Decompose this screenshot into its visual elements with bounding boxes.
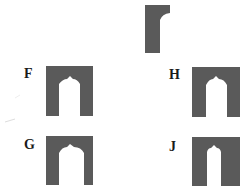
- option-h-shape[interactable]: [192, 67, 240, 117]
- option-label-h: H: [169, 68, 180, 82]
- option-label-j: J: [169, 140, 176, 154]
- option-j-shape[interactable]: [192, 137, 240, 186]
- figure-canvas: [0, 0, 248, 194]
- option-label-f: F: [24, 67, 33, 81]
- option-label-g: G: [24, 138, 35, 152]
- stray-mark: [15, 95, 20, 98]
- given-piece-shape: [145, 5, 170, 53]
- stray-mark: [5, 119, 15, 122]
- option-g-shape[interactable]: [46, 136, 93, 185]
- option-f-shape[interactable]: [46, 66, 93, 116]
